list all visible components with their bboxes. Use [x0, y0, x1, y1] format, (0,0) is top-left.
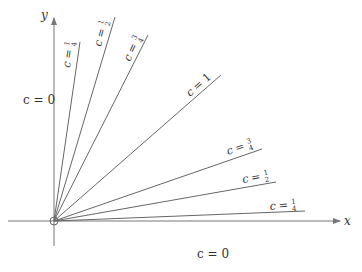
line-c-one	[54, 75, 221, 221]
level-lines	[54, 17, 305, 221]
x-axis-label: x	[344, 214, 351, 228]
svg-text:c: c	[241, 172, 249, 186]
svg-text:c: c	[60, 60, 74, 68]
svg-text:=: =	[278, 198, 288, 212]
svg-text:c: c	[269, 200, 276, 213]
svg-text:4: 4	[137, 36, 146, 44]
svg-text:=: =	[94, 27, 109, 39]
label-c-quarter-shallow: c = 1 4	[269, 198, 297, 215]
svg-text:c: c	[91, 38, 105, 47]
svg-text:4: 4	[70, 41, 79, 47]
svg-text:=: =	[233, 140, 246, 155]
svg-text:=: =	[250, 170, 261, 184]
line-c-half-shallow	[54, 182, 276, 221]
label-c-three-quarter-steep: c = 3 4	[121, 33, 146, 64]
x-axis-c-label: c = 0	[197, 247, 229, 261]
svg-text:=: =	[61, 49, 75, 60]
svg-text:4: 4	[292, 205, 298, 213]
y-axis-label: y	[40, 8, 48, 22]
svg-text:4: 4	[248, 143, 255, 152]
label-c-half-steep: c = 1 2	[91, 19, 112, 48]
label-c-quarter-steep: c = 1 4	[60, 40, 79, 69]
svg-text:=: =	[125, 41, 141, 55]
level-curves-diagram: x y c = 0 c = 0 c = 1 4 c = 1 2 c = 3 4 …	[0, 0, 362, 272]
line-c-quarter-steep	[54, 42, 80, 221]
label-c-half-shallow: c = 1 2	[241, 169, 270, 188]
svg-text:2: 2	[104, 21, 113, 27]
y-axis-c-label: c = 0	[23, 93, 55, 107]
line-c-quarter-shallow	[54, 211, 305, 221]
svg-text:2: 2	[264, 175, 270, 184]
